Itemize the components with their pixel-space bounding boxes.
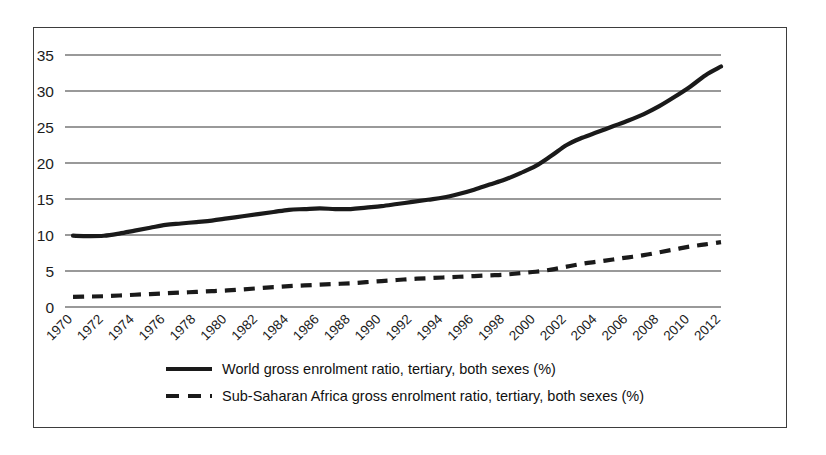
x-tick-label: 1978 xyxy=(167,312,199,344)
x-tick-label: 2006 xyxy=(599,312,631,344)
x-tick-label: 2000 xyxy=(506,312,538,344)
y-tick-label: 25 xyxy=(37,119,54,136)
x-tick-label: 1980 xyxy=(198,312,230,344)
y-tick-label: 35 xyxy=(37,47,54,64)
series-line-1 xyxy=(73,67,721,237)
y-tick-label: 0 xyxy=(45,299,54,316)
line-chart: 05101520253035 1970197219741976197819801… xyxy=(0,0,826,455)
x-axis-tick-labels: 1970197219741976197819801982198419861988… xyxy=(43,311,723,343)
x-tick-label: 2008 xyxy=(630,312,662,344)
x-tick-label: 2010 xyxy=(660,312,692,344)
x-tick-label: 1990 xyxy=(352,312,384,344)
x-tick-label: 1982 xyxy=(228,312,260,344)
x-tick-label: 1992 xyxy=(383,312,415,344)
y-tick-label: 15 xyxy=(37,191,54,208)
legend-label-2: Sub-Saharan Africa gross enrolment ratio… xyxy=(222,388,644,404)
y-tick-label: 20 xyxy=(37,155,55,172)
y-tick-label: 10 xyxy=(37,227,55,244)
x-tick-label: 2012 xyxy=(691,312,723,344)
x-tick-label: 2002 xyxy=(537,312,569,344)
y-axis-tick-labels: 05101520253035 xyxy=(37,47,55,316)
x-tick-label: 1996 xyxy=(444,312,476,344)
x-tick-label: 1976 xyxy=(136,312,168,344)
legend-label-1: World gross enrolment ratio, tertiary, b… xyxy=(222,361,556,377)
x-tick-label: 1998 xyxy=(475,312,507,344)
x-tick-label: 1986 xyxy=(290,312,322,344)
series-line-2 xyxy=(73,242,721,297)
x-tick-label: 1988 xyxy=(321,312,353,344)
x-tick-label: 1970 xyxy=(43,312,75,344)
x-tick-label: 2004 xyxy=(568,311,600,343)
chart-figure: 05101520253035 1970197219741976197819801… xyxy=(0,0,826,455)
x-tick-label: 1974 xyxy=(105,311,137,343)
y-tick-label: 5 xyxy=(45,263,54,280)
x-tick-label: 1972 xyxy=(74,312,106,344)
data-series-group xyxy=(73,67,721,297)
x-tick-label: 1994 xyxy=(414,311,446,343)
gridlines-group xyxy=(65,55,721,307)
x-tick-label: 1984 xyxy=(259,311,291,343)
y-tick-label: 30 xyxy=(37,83,55,100)
chart-legend: World gross enrolment ratio, tertiary, b… xyxy=(166,361,644,404)
